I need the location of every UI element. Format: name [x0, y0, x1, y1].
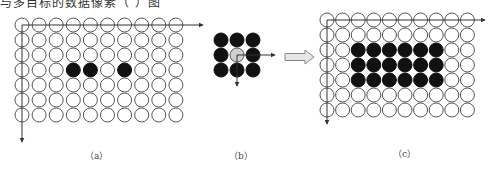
pixel-empty [83, 33, 97, 47]
pixel-empty [152, 78, 166, 92]
pixel-filled [351, 43, 365, 57]
pixel-empty [118, 78, 132, 92]
pixel-filled [398, 73, 412, 87]
pixel-filled [66, 63, 80, 77]
pixel-empty [460, 73, 474, 87]
pixel-filled [414, 73, 428, 87]
pixel-empty [445, 58, 459, 72]
pixel-empty [398, 103, 412, 117]
pixel-empty [336, 88, 350, 102]
pixel-empty [336, 73, 350, 87]
pixel-filled [351, 58, 365, 72]
panel-label-a: （a） [85, 149, 108, 162]
pixel-empty [445, 73, 459, 87]
pixel-filled [118, 63, 132, 77]
pixel-empty [336, 58, 350, 72]
pixel-empty [101, 78, 115, 92]
pixel-empty [414, 28, 428, 42]
pixel-empty [429, 88, 443, 102]
pixel-empty [169, 48, 183, 62]
pixel-filled [398, 58, 412, 72]
pixel-empty [445, 88, 459, 102]
pixel-empty [118, 48, 132, 62]
pixel-empty [460, 43, 474, 57]
pixel-empty [49, 33, 63, 47]
pixel-filled [83, 63, 97, 77]
pixel-filled [414, 43, 428, 57]
kernel-pixel [246, 33, 260, 47]
pixel-filled [414, 58, 428, 72]
pixel-empty [32, 63, 46, 77]
pixel-empty [429, 103, 443, 117]
pixel-empty [66, 33, 80, 47]
pixel-empty [135, 33, 149, 47]
pixel-empty [445, 103, 459, 117]
pixel-filled [351, 73, 365, 87]
pixel-empty [336, 103, 350, 117]
transform-arrow-icon [285, 50, 314, 64]
pixel-empty [32, 33, 46, 47]
pixel-empty [83, 93, 97, 107]
pixel-empty [83, 108, 97, 122]
kernel-pixel [214, 48, 228, 62]
pixel-empty [49, 93, 63, 107]
pixel-filled [367, 58, 381, 72]
pixel-empty [32, 78, 46, 92]
pixel-filled [367, 43, 381, 57]
pixel-empty [135, 63, 149, 77]
pixel-empty [351, 103, 365, 117]
pixel-empty [66, 48, 80, 62]
pixel-empty [152, 63, 166, 77]
pixel-empty [445, 28, 459, 42]
pixel-empty [66, 93, 80, 107]
pixel-empty [101, 93, 115, 107]
pixel-empty [83, 78, 97, 92]
pixel-empty [49, 78, 63, 92]
pixel-filled [398, 43, 412, 57]
panel-c-output-grid [320, 13, 485, 124]
pixel-filled [382, 43, 396, 57]
pixel-empty [101, 63, 115, 77]
morphology-diagram [0, 0, 494, 170]
pixel-empty [32, 108, 46, 122]
pixel-empty [460, 58, 474, 72]
pixel-empty [429, 28, 443, 42]
kernel-pixel [214, 63, 228, 77]
pixel-empty [351, 88, 365, 102]
pixel-empty [336, 43, 350, 57]
pixel-empty [135, 108, 149, 122]
pixel-empty [382, 88, 396, 102]
kernel-pixel [230, 33, 244, 47]
pixel-empty [83, 48, 97, 62]
pixel-empty [152, 33, 166, 47]
panel-b-structuring-element [214, 33, 275, 86]
pixel-empty [135, 93, 149, 107]
pixel-empty [118, 33, 132, 47]
pixel-empty [460, 28, 474, 42]
pixel-empty [135, 48, 149, 62]
pixel-empty [66, 108, 80, 122]
panel-a-input-grid [15, 18, 203, 142]
pixel-empty [414, 103, 428, 117]
pixel-empty [49, 108, 63, 122]
pixel-empty [414, 88, 428, 102]
pixel-empty [367, 28, 381, 42]
kernel-pixel [214, 33, 228, 47]
pixel-empty [460, 88, 474, 102]
pixel-empty [101, 48, 115, 62]
pixel-empty [460, 103, 474, 117]
pixel-empty [118, 93, 132, 107]
pixel-empty [66, 78, 80, 92]
pixel-empty [101, 108, 115, 122]
pixel-empty [445, 43, 459, 57]
pixel-empty [367, 103, 381, 117]
pixel-empty [135, 78, 149, 92]
pixel-filled [429, 73, 443, 87]
pixel-filled [429, 58, 443, 72]
pixel-empty [169, 93, 183, 107]
pixel-empty [169, 33, 183, 47]
pixel-empty [49, 63, 63, 77]
pixel-empty [101, 33, 115, 47]
panel-label-b: （b） [229, 149, 253, 162]
panel-label-c: （c） [393, 147, 416, 160]
